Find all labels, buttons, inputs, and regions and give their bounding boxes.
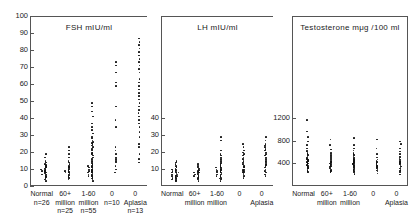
data-point xyxy=(400,143,402,145)
x-label-line2: Aplasia xyxy=(250,199,273,208)
x-label-count: n=13 xyxy=(124,207,147,216)
data-point xyxy=(138,146,140,148)
x-label-testosterone-4: 0Aplasia xyxy=(385,190,408,207)
data-point xyxy=(139,78,141,80)
data-point xyxy=(265,160,267,162)
data-point xyxy=(399,151,401,153)
x-label-line2: Aplasia xyxy=(385,199,408,208)
data-point xyxy=(265,140,267,142)
figure-root: 0102030405060708090100Normaln=2660+milli… xyxy=(0,0,420,221)
data-point xyxy=(138,143,140,145)
data-point xyxy=(138,89,140,91)
x-label-count: n=55 xyxy=(79,207,99,216)
data-point xyxy=(399,156,401,158)
x-label-count: n=10 xyxy=(104,199,120,208)
data-point xyxy=(138,109,140,111)
scatter-column-fsh-4 xyxy=(31,17,147,185)
y-tick-label-fsh-30: 30 xyxy=(20,131,28,139)
x-label-lh-4: 0Aplasia xyxy=(250,190,273,207)
y-tick-label-lh-20: 20 xyxy=(151,148,159,156)
scatter-column-lh-4 xyxy=(162,17,273,185)
x-label-line1: 0 xyxy=(371,190,375,197)
x-label-line1: 0 xyxy=(394,190,398,197)
x-label-lh-1: 60+million xyxy=(185,190,205,207)
x-label-line1: 0 xyxy=(110,190,114,197)
data-point xyxy=(264,146,266,148)
x-label-line1: 60+ xyxy=(189,190,201,197)
data-point xyxy=(265,143,267,145)
data-point xyxy=(399,141,401,143)
scatter-column-testosterone-4 xyxy=(293,17,407,185)
x-label-testosterone-3: 0 xyxy=(371,190,375,199)
x-label-line2: million xyxy=(55,199,75,208)
data-point xyxy=(264,150,266,152)
data-point xyxy=(265,163,267,165)
x-label-line1: 1-60 xyxy=(210,190,224,197)
data-point xyxy=(265,136,267,138)
data-point xyxy=(265,172,267,174)
data-point xyxy=(399,172,401,174)
panel-fsh: FSH mIU/ml xyxy=(30,16,147,186)
data-point xyxy=(138,116,140,118)
data-point xyxy=(138,38,140,40)
x-label-line2: million xyxy=(79,199,99,208)
x-label-testosterone-2: 1-60million xyxy=(340,190,360,207)
x-label-line1: 0 xyxy=(260,190,264,197)
x-label-line1: 0 xyxy=(237,190,241,197)
data-point xyxy=(139,102,141,104)
data-point xyxy=(138,61,140,63)
data-point xyxy=(264,170,266,172)
data-point xyxy=(265,158,267,160)
x-label-testosterone-0: Normal xyxy=(292,190,315,199)
y-tick-label-testosterone-800: 800 xyxy=(277,137,290,145)
data-point xyxy=(138,162,140,164)
data-point xyxy=(265,169,267,171)
x-label-line1: 1-60 xyxy=(343,190,357,197)
data-point xyxy=(138,68,140,70)
data-point xyxy=(139,65,141,67)
data-point xyxy=(139,153,141,155)
x-label-lh-2: 1-60million xyxy=(207,190,227,207)
x-label-fsh-1: 60+millionn=25 xyxy=(55,190,75,216)
data-point xyxy=(138,95,140,97)
data-point xyxy=(138,51,140,53)
y-tick-label-fsh-0: 0 xyxy=(24,182,28,190)
y-tick-label-fsh-90: 90 xyxy=(20,29,28,37)
data-point xyxy=(138,112,140,114)
data-point xyxy=(265,152,267,154)
data-point xyxy=(139,41,141,43)
y-tick-label-lh-30: 30 xyxy=(151,131,159,139)
y-tick-label-lh-10: 10 xyxy=(151,165,159,173)
data-point xyxy=(265,157,267,159)
y-tick-label-testosterone-400: 400 xyxy=(277,160,290,168)
y-tick-label-fsh-60: 60 xyxy=(20,80,28,88)
y-tick-label-fsh-50: 50 xyxy=(20,97,28,105)
data-point xyxy=(139,126,141,128)
data-point xyxy=(139,72,141,74)
data-point xyxy=(138,82,140,84)
data-point xyxy=(399,153,401,155)
data-point xyxy=(399,160,401,162)
x-label-line1: 60+ xyxy=(59,190,71,197)
x-label-count: n=26 xyxy=(30,199,53,208)
x-label-line1: 60+ xyxy=(321,190,333,197)
data-point xyxy=(264,167,266,169)
data-point xyxy=(265,153,267,155)
data-point xyxy=(139,131,141,133)
data-point xyxy=(138,55,140,57)
data-point xyxy=(139,58,141,60)
data-point xyxy=(138,85,140,87)
y-tick-label-fsh-80: 80 xyxy=(20,46,28,54)
data-point xyxy=(265,175,267,177)
x-label-line1: Normal xyxy=(292,190,315,197)
data-point xyxy=(138,44,140,46)
x-label-lh-3: 0 xyxy=(237,190,241,199)
panel-lh: LH mIU/ml xyxy=(161,16,273,186)
x-label-fsh-4: 0Aplasian=13 xyxy=(124,190,147,216)
data-point xyxy=(264,155,266,157)
x-label-line1: 1-60 xyxy=(81,190,95,197)
data-point xyxy=(264,174,266,176)
x-label-fsh-3: 0n=10 xyxy=(104,190,120,207)
x-label-line2: million xyxy=(340,199,360,208)
data-point xyxy=(138,106,140,108)
